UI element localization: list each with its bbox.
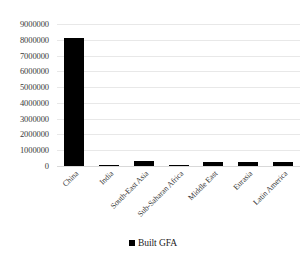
x-axis-tick-label: Latin America bbox=[251, 169, 289, 207]
chart-legend: Built GFA bbox=[0, 238, 306, 248]
y-axis-tick-label: 1000000 bbox=[20, 145, 49, 155]
bar-slot bbox=[265, 24, 300, 166]
x-axis-tick-label: India bbox=[98, 169, 116, 187]
y-axis-tick-label: 3000000 bbox=[20, 114, 49, 124]
y-axis-tick-label: 7000000 bbox=[20, 51, 49, 61]
plot-area bbox=[57, 24, 300, 166]
bar-slot bbox=[161, 24, 196, 166]
y-axis: 9000000 8000000 7000000 6000000 5000000 … bbox=[0, 24, 53, 166]
y-axis-tick-label: 6000000 bbox=[20, 66, 49, 76]
bar-south-east-asia bbox=[134, 161, 154, 166]
bar-sub-saharan-africa bbox=[169, 165, 189, 166]
bar-slot bbox=[126, 24, 161, 166]
legend-label-built-gfa: Built GFA bbox=[138, 238, 177, 248]
y-axis-tick-label: 0 bbox=[45, 161, 49, 171]
x-axis-tick-label: Middle East bbox=[186, 169, 219, 202]
bar-china bbox=[64, 38, 84, 166]
y-axis-tick-label: 5000000 bbox=[20, 82, 49, 92]
bar-chart: 9000000 8000000 7000000 6000000 5000000 … bbox=[0, 0, 306, 262]
bar-india bbox=[99, 165, 119, 166]
bar-latin-america bbox=[273, 162, 293, 166]
x-axis-tick-label: China bbox=[61, 169, 81, 189]
bar-slot bbox=[231, 24, 266, 166]
x-axis: China India South-East Asia Sub-Saharan … bbox=[57, 167, 300, 225]
x-axis-tick-label: Eurasia bbox=[231, 169, 254, 192]
bar-slot bbox=[57, 24, 92, 166]
bar-slot bbox=[92, 24, 127, 166]
y-axis-tick-label: 8000000 bbox=[20, 35, 49, 45]
bar-series-built-gfa bbox=[57, 24, 300, 166]
y-axis-tick-label: 4000000 bbox=[20, 98, 49, 108]
y-axis-tick-label: 9000000 bbox=[20, 19, 49, 29]
bar-middle-east bbox=[203, 162, 223, 166]
bar-slot bbox=[196, 24, 231, 166]
bar-eurasia bbox=[238, 162, 258, 166]
legend-square-marker-icon bbox=[129, 240, 135, 246]
y-axis-tick-label: 2000000 bbox=[20, 129, 49, 139]
